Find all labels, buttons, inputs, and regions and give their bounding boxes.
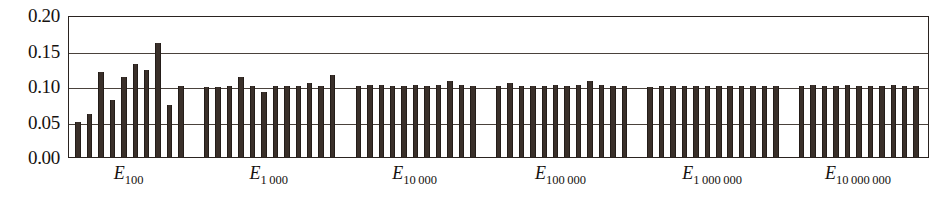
bar xyxy=(87,114,92,157)
x-label-base: E xyxy=(114,163,125,183)
x-axis-group-label: E100 xyxy=(114,163,144,188)
x-axis-group-label: E10 000 xyxy=(392,163,437,188)
bar-chart-figure: 0.000.050.100.150.20 E100E1 000E10 000E1… xyxy=(0,0,951,205)
x-label-subscript: 1 000 xyxy=(260,173,288,187)
bar xyxy=(879,86,884,157)
bar xyxy=(167,105,172,157)
bar xyxy=(519,86,524,157)
x-axis-group-label: E1 000 000 xyxy=(682,163,742,188)
bar xyxy=(913,86,918,157)
bar xyxy=(902,86,907,157)
x-axis-group-label: E100 000 xyxy=(535,163,586,188)
bar xyxy=(739,86,744,157)
y-axis-tick-label: 0.10 xyxy=(28,76,60,98)
bar xyxy=(307,83,312,157)
y-axis-tick-labels: 0.000.050.100.150.20 xyxy=(0,0,66,205)
bar xyxy=(553,85,558,157)
bar xyxy=(822,86,827,157)
y-axis-tick-label: 0.00 xyxy=(28,147,60,169)
bar xyxy=(542,86,547,157)
bar xyxy=(716,86,721,157)
bar xyxy=(110,100,115,158)
bar xyxy=(470,86,475,157)
bar xyxy=(622,86,627,157)
bar xyxy=(379,85,384,157)
x-label-subscript: 10 000 000 xyxy=(836,173,891,187)
x-label-base: E xyxy=(249,163,260,183)
bar xyxy=(727,86,732,157)
bar xyxy=(682,86,687,157)
bar xyxy=(390,86,395,157)
bar xyxy=(891,85,896,157)
x-label-base: E xyxy=(392,163,403,183)
bar xyxy=(833,86,838,157)
bar xyxy=(356,86,361,157)
bar xyxy=(750,86,755,157)
bar xyxy=(496,86,501,157)
bar xyxy=(647,87,652,157)
x-axis-group-label: E10 000 000 xyxy=(825,163,891,188)
bar xyxy=(261,92,266,157)
bar xyxy=(250,86,255,157)
bar xyxy=(693,86,698,157)
plot-area xyxy=(68,16,929,158)
bar xyxy=(273,86,278,157)
y-axis-tick-label: 0.05 xyxy=(28,112,60,134)
bar xyxy=(659,86,664,157)
bar xyxy=(367,85,372,157)
y-axis-tick-label: 0.15 xyxy=(28,41,60,63)
bar xyxy=(670,86,675,157)
x-label-subscript: 10 000 xyxy=(403,173,437,187)
x-axis-group-labels: E100E1 000E10 000E100 000E1 000 000E10 0… xyxy=(68,163,929,205)
bar xyxy=(773,86,778,157)
bar xyxy=(75,122,80,158)
x-label-base: E xyxy=(825,163,836,183)
x-label-subscript: 1 000 000 xyxy=(693,173,742,187)
bar xyxy=(799,86,804,157)
bar xyxy=(507,83,512,157)
bar xyxy=(98,72,103,157)
bar xyxy=(564,86,569,157)
bar xyxy=(215,87,220,157)
bar xyxy=(436,85,441,157)
bar xyxy=(318,86,323,157)
bar xyxy=(178,86,183,157)
bar xyxy=(810,85,815,157)
bar xyxy=(413,85,418,157)
bar xyxy=(330,75,335,157)
bar xyxy=(227,86,232,157)
bar xyxy=(284,86,289,157)
bar xyxy=(447,81,452,157)
bar xyxy=(856,86,861,157)
bar xyxy=(424,86,429,157)
bar xyxy=(587,81,592,157)
x-axis-group-label: E1 000 xyxy=(249,163,288,188)
bar xyxy=(868,86,873,157)
bar xyxy=(238,77,243,157)
bar xyxy=(133,64,138,157)
bar xyxy=(121,77,126,157)
x-label-subscript: 100 xyxy=(125,173,144,187)
bar xyxy=(845,85,850,157)
bar xyxy=(599,85,604,157)
bar xyxy=(296,86,301,157)
bar xyxy=(530,86,535,157)
y-axis-tick-label: 0.20 xyxy=(28,5,60,27)
bar xyxy=(155,43,160,157)
x-label-base: E xyxy=(535,163,546,183)
bar xyxy=(762,86,767,157)
bar xyxy=(401,86,406,157)
x-label-subscript: 100 000 xyxy=(546,173,586,187)
bar xyxy=(144,70,149,157)
bar xyxy=(459,85,464,157)
bar xyxy=(705,86,710,157)
bar xyxy=(610,86,615,157)
x-label-base: E xyxy=(682,163,693,183)
bar-series xyxy=(69,17,928,157)
bar xyxy=(576,85,581,157)
bar xyxy=(204,87,209,157)
